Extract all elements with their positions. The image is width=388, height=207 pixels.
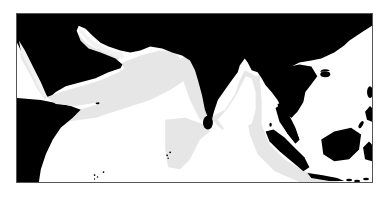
map-frame — [16, 13, 373, 183]
hainan-island — [320, 71, 330, 77]
range-map — [17, 14, 372, 182]
